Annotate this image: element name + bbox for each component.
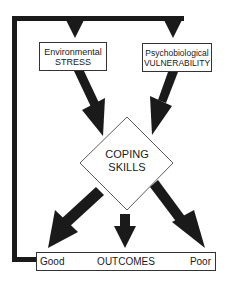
vulnerability-line2: VULNERABILITY <box>143 58 211 68</box>
environmental-stress-box: Environmental STRESS <box>39 42 107 71</box>
coping-line1: COPING <box>97 148 157 161</box>
coping-line2: SKILLS <box>97 161 157 174</box>
stress-line2: STRESS <box>40 57 106 67</box>
outcomes-box: Good OUTCOMES Poor <box>36 252 216 271</box>
stress-line1: Environmental <box>40 47 106 57</box>
arrow-stress-to-coping <box>74 71 105 136</box>
vulnerability-line1: Psychobiological <box>143 48 211 58</box>
outcomes-label: OUTCOMES <box>37 253 215 270</box>
coping-skills-label: COPING SKILLS <box>97 148 157 174</box>
psychobiological-vulnerability-box: Psychobiological VULNERABILITY <box>142 43 212 72</box>
arrow-vulnerability-to-coping <box>150 72 178 135</box>
arrow-coping-to-poor <box>150 180 205 248</box>
outcome-poor-label: Poor <box>190 253 211 270</box>
arrow-coping-to-good <box>48 187 104 248</box>
arrow-coping-to-outcomes <box>114 214 136 248</box>
